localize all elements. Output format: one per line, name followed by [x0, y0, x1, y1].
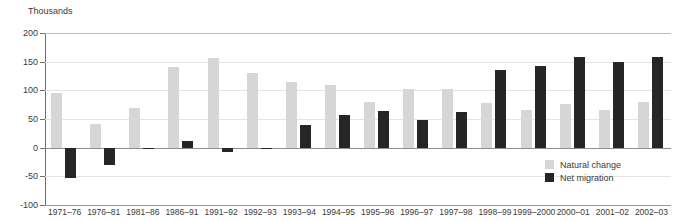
x-axis-tick-label: 2000–01	[557, 207, 590, 217]
y-axis-tick-label: -50	[6, 171, 38, 181]
x-axis-tick-label: 2001–02	[596, 207, 629, 217]
bar-group	[436, 33, 475, 205]
bar-net-migration	[222, 148, 233, 152]
bar-net-migration	[65, 148, 76, 178]
bar-natural-change	[481, 103, 492, 148]
bar-natural-change	[208, 58, 219, 148]
legend-label-net-migration: Net migration	[560, 173, 614, 183]
x-axis-tick-label: 1981–86	[126, 207, 159, 217]
y-axis-tick-label: 200	[6, 28, 38, 38]
x-axis-tick-label: 1991–92	[205, 207, 238, 217]
bar-natural-change	[90, 124, 101, 148]
x-axis-tick-label: 1994–95	[322, 207, 355, 217]
x-axis-tick-label: 1999–2000	[513, 207, 556, 217]
bar-natural-change	[599, 110, 610, 147]
bar-group	[358, 33, 397, 205]
x-axis-tick-label: 2002–03	[635, 207, 668, 217]
y-axis-tick	[40, 90, 45, 91]
bar-natural-change	[286, 82, 297, 147]
bar-natural-change	[638, 102, 649, 147]
x-axis-tick-label: 1993–94	[283, 207, 316, 217]
legend: Natural change Net migration	[545, 158, 621, 184]
bar-net-migration	[339, 115, 350, 148]
bar-natural-change	[442, 89, 453, 148]
bar-net-migration	[143, 148, 154, 149]
legend-item-natural-change: Natural change	[545, 158, 621, 171]
bar-net-migration	[613, 62, 624, 148]
x-axis-tick-label: 1995–96	[361, 207, 394, 217]
bar-group	[123, 33, 162, 205]
bar-group	[280, 33, 319, 205]
bar-natural-change	[325, 85, 336, 148]
bar-net-migration	[652, 57, 663, 148]
x-axis-tick-label: 1996–97	[400, 207, 433, 217]
bar-net-migration	[261, 148, 272, 149]
y-axis-tick	[40, 119, 45, 120]
bar-net-migration	[535, 66, 546, 147]
bar-net-migration	[378, 111, 389, 148]
bar-natural-change	[403, 89, 414, 148]
x-axis-tick-label: 1986–91	[165, 207, 198, 217]
bar-group	[632, 33, 671, 205]
bar-net-migration	[495, 70, 506, 147]
bar-natural-change	[129, 108, 140, 148]
y-axis-tick-label: -100	[6, 200, 38, 210]
legend-label-natural-change: Natural change	[560, 160, 621, 170]
x-axis-tick-label: 1971–76	[48, 207, 81, 217]
bar-group	[45, 33, 84, 205]
bar-group	[202, 33, 241, 205]
bar-natural-change	[521, 110, 532, 147]
x-axis-tick-label: 1992–93	[244, 207, 277, 217]
y-axis-tick	[40, 33, 45, 34]
y-axis-tick	[40, 148, 45, 149]
bar-net-migration	[574, 57, 585, 148]
bar-natural-change	[168, 67, 179, 147]
y-axis-tick	[40, 205, 45, 206]
bar-chart: Thousands 200150100500-50-100 1971–76197…	[0, 0, 678, 221]
y-axis-tick-label: 150	[6, 57, 38, 67]
x-axis-tick-label: 1997–98	[439, 207, 472, 217]
gridline	[45, 205, 671, 206]
bar-net-migration	[182, 141, 193, 148]
x-axis-tick-label: 1976–81	[87, 207, 120, 217]
bar-natural-change	[364, 102, 375, 147]
bar-natural-change	[560, 104, 571, 148]
bar-group	[475, 33, 514, 205]
y-axis-tick-label: 100	[6, 85, 38, 95]
bar-group	[162, 33, 201, 205]
bar-net-migration	[300, 125, 311, 147]
x-axis-labels: 1971–761976–811981–861986–911991–921992–…	[45, 207, 671, 221]
y-axis-tick-label: 50	[6, 114, 38, 124]
bar-net-migration	[456, 112, 467, 148]
bar-group	[397, 33, 436, 205]
bar-net-migration	[104, 148, 115, 165]
bar-group	[84, 33, 123, 205]
bar-group	[319, 33, 358, 205]
legend-swatch-net-migration-icon	[545, 173, 554, 182]
y-axis-tick	[40, 62, 45, 63]
y-axis-tick	[40, 176, 45, 177]
bar-natural-change	[51, 93, 62, 147]
y-axis-labels: 200150100500-50-100	[0, 0, 38, 221]
legend-item-net-migration: Net migration	[545, 171, 621, 184]
y-axis-tick-label: 0	[6, 143, 38, 153]
bar-natural-change	[247, 73, 258, 148]
x-axis-tick-label: 1998–99	[478, 207, 511, 217]
legend-swatch-natural-change-icon	[545, 160, 554, 169]
bar-group	[241, 33, 280, 205]
bar-net-migration	[417, 120, 428, 148]
